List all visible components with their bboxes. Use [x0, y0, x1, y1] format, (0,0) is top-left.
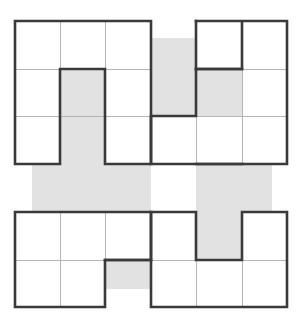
shaded-cell-r4c5: [196, 164, 242, 212]
polyomino-puzzle-canvas: [0, 0, 301, 324]
shaded-cell-r2c4: [151, 69, 196, 116]
shaded-cell-r5c5: [196, 212, 242, 260]
thick-outlines-group: [15, 21, 287, 307]
puzzle-svg: [0, 0, 301, 324]
shaded-cell-r2c5: [196, 69, 242, 116]
shaded-cell-r4c3: [105, 164, 151, 212]
shaded-cell-r4c1: [32, 164, 60, 212]
shaded-cell-r4c1b: [60, 164, 105, 212]
shaded-cell-r6c3: [105, 260, 151, 289]
shaded-cell-r2c2: [60, 69, 105, 116]
shaded-cell-r4c6: [242, 164, 272, 212]
shaded-cell-r3c2: [60, 116, 105, 164]
shaded-cell-r1c4: [151, 38, 196, 69]
